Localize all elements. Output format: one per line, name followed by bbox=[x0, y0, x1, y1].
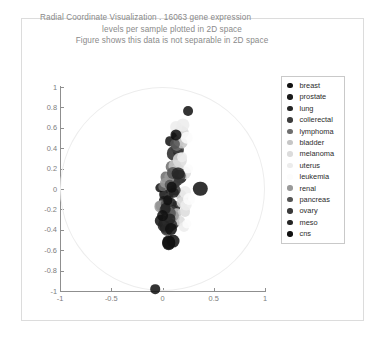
legend-marker-icon bbox=[287, 151, 293, 157]
y-tick-label: 0.8 bbox=[30, 103, 57, 112]
y-tick-label: 0.2 bbox=[30, 164, 57, 173]
legend-item-leukemia[interactable]: leukemia bbox=[282, 171, 344, 182]
legend-label: renal bbox=[300, 183, 316, 194]
legend-label: breast bbox=[300, 80, 321, 91]
legend-marker-icon bbox=[287, 106, 293, 112]
scatter-point bbox=[183, 107, 193, 117]
legend-label: cns bbox=[300, 228, 312, 239]
scatter-plot-area bbox=[60, 87, 265, 291]
y-tick-label: -0.2 bbox=[30, 205, 57, 214]
figure-root: Radial Coordinate Visualization . 16063 … bbox=[0, 0, 386, 341]
legend-marker-icon bbox=[287, 163, 293, 169]
title-line-3: Figure shows this data is not separable … bbox=[22, 35, 322, 47]
legend-label: bladder bbox=[300, 137, 325, 148]
legend-label: uterus bbox=[300, 160, 321, 171]
y-tick-label: -0.8 bbox=[30, 266, 57, 275]
legend-label: lung bbox=[300, 103, 314, 114]
title-line-2: levels per sample plotted in 2D space bbox=[22, 24, 322, 36]
legend-item-melanoma[interactable]: melanoma bbox=[282, 148, 344, 159]
x-tick-label: 0.5 bbox=[200, 294, 228, 303]
y-tick-label: 1 bbox=[30, 83, 57, 92]
legend-marker-icon bbox=[287, 117, 293, 123]
legend-marker-icon bbox=[287, 174, 293, 180]
legend-label: meso bbox=[300, 217, 318, 228]
legend-item-lymphoma[interactable]: lymphoma bbox=[282, 126, 344, 137]
y-tick-label: 0.6 bbox=[30, 123, 57, 132]
legend-item-pancreas[interactable]: pancreas bbox=[282, 194, 344, 205]
legend-label: leukemia bbox=[300, 171, 330, 182]
legend-item-uterus[interactable]: uterus bbox=[282, 160, 344, 171]
y-tick-label: -0.6 bbox=[30, 246, 57, 255]
legend-item-bladder[interactable]: bladder bbox=[282, 137, 344, 148]
x-tick-mark bbox=[265, 288, 266, 292]
y-tick-label: -0.4 bbox=[30, 225, 57, 234]
legend-marker-icon bbox=[287, 83, 293, 89]
legend-label: prostate bbox=[300, 91, 327, 102]
legend[interactable]: breastprostatelungcollerectallymphomabla… bbox=[281, 76, 345, 244]
legend-item-lung[interactable]: lung bbox=[282, 103, 344, 114]
legend-marker-icon bbox=[287, 94, 293, 100]
legend-marker-icon bbox=[287, 140, 293, 146]
legend-item-cns[interactable]: cns bbox=[282, 228, 344, 239]
x-tick-label: -1 bbox=[46, 294, 74, 303]
legend-item-renal[interactable]: renal bbox=[282, 183, 344, 194]
legend-item-meso[interactable]: meso bbox=[282, 217, 344, 228]
scatter-point bbox=[163, 195, 173, 205]
legend-marker-icon bbox=[287, 231, 293, 237]
y-tick-label: 0.4 bbox=[30, 144, 57, 153]
x-tick-label: -0.5 bbox=[97, 294, 125, 303]
legend-marker-icon bbox=[287, 208, 293, 214]
scatter-point bbox=[162, 236, 176, 250]
scatter-point bbox=[151, 284, 161, 294]
legend-label: collerectal bbox=[300, 114, 333, 125]
legend-label: ovary bbox=[300, 205, 318, 216]
title-line-1: Radial Coordinate Visualization . 16063 … bbox=[22, 12, 322, 24]
x-tick-label: 0 bbox=[149, 294, 177, 303]
x-tick-label: 1 bbox=[251, 294, 279, 303]
scatter-point bbox=[171, 167, 184, 180]
legend-marker-icon bbox=[287, 197, 293, 203]
scatter-point bbox=[166, 182, 177, 193]
legend-item-breast[interactable]: breast bbox=[282, 80, 344, 91]
scatter-point bbox=[157, 210, 169, 222]
legend-item-prostate[interactable]: prostate bbox=[282, 91, 344, 102]
page-title: Radial Coordinate Visualization . 16063 … bbox=[22, 12, 322, 47]
y-tick-label: 0 bbox=[30, 185, 57, 194]
legend-label: pancreas bbox=[300, 194, 330, 205]
legend-marker-icon bbox=[287, 129, 293, 135]
legend-marker-icon bbox=[287, 220, 293, 226]
scatter-point bbox=[183, 193, 195, 205]
legend-item-collerectal[interactable]: collerectal bbox=[282, 114, 344, 125]
scatter-point bbox=[177, 153, 187, 163]
legend-marker-icon bbox=[287, 185, 293, 191]
legend-item-ovary[interactable]: ovary bbox=[282, 205, 344, 216]
legend-label: lymphoma bbox=[300, 126, 334, 137]
legend-label: melanoma bbox=[300, 148, 335, 159]
scatter-point bbox=[165, 223, 177, 235]
